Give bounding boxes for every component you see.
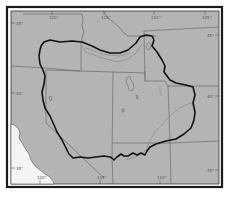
tick-bottom-2: 110°: [157, 175, 167, 180]
tick-left-1: 40°: [16, 91, 23, 96]
sevier-lake: [122, 109, 124, 112]
tick-right-1: 40°: [207, 94, 214, 99]
tick-top-3: 105°: [202, 15, 212, 20]
tick-left-2: 35°: [16, 166, 23, 171]
tick-top-1: 115°: [101, 15, 111, 20]
tick-right-0: 45°: [207, 33, 214, 38]
map-figure: 120° 115° 110° 105° 120° 115° 110° 45° 4…: [0, 0, 231, 200]
tick-right-2: 35°: [207, 168, 214, 173]
tick-top-0: 120°: [49, 15, 59, 20]
tick-left-0: 45°: [16, 21, 23, 26]
tick-bottom-0: 120°: [37, 175, 47, 180]
tick-bottom-1: 115°: [97, 175, 107, 180]
tick-top-2: 110°: [151, 15, 161, 20]
